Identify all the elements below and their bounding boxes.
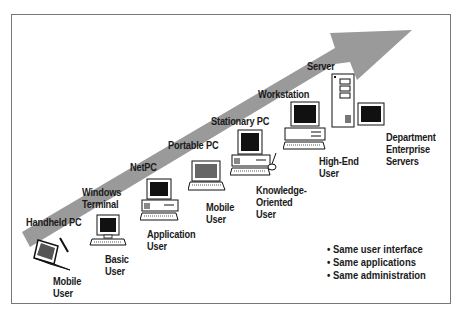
terminal-icon xyxy=(88,214,128,250)
platform-label-workstation: Workstation xyxy=(258,88,309,100)
user-label-mobile-handheld: Mobile User xyxy=(53,275,81,299)
user-label-basic: Basic User xyxy=(105,253,129,277)
user-label-knowledge-oriented: Knowledge- Oriented User xyxy=(256,184,307,220)
user-label-mobile-portable: Mobile User xyxy=(206,201,234,225)
platform-label-stationary-pc: Stationary PC xyxy=(211,115,269,127)
platform-label-netpc: NetPC xyxy=(130,161,157,173)
bullet-item: • Same user interface xyxy=(327,243,426,256)
user-label-application: Application User xyxy=(147,228,195,252)
laptop-icon xyxy=(188,160,226,194)
bullet-item: • Same applications xyxy=(327,256,426,269)
server-tower-icon xyxy=(330,73,386,129)
user-label-department-enterprise-servers: Department Enterprise Servers xyxy=(386,131,436,167)
bullet-list: • Same user interface • Same application… xyxy=(327,243,426,282)
user-label-high-end: High-End User xyxy=(319,155,359,179)
platform-label-handheld-pc: Handheld PC xyxy=(26,216,82,228)
desktop-pc-icon xyxy=(140,178,180,224)
workstation-icon xyxy=(283,101,327,151)
platform-label-server: Server xyxy=(307,60,335,72)
handheld-pc-icon xyxy=(32,236,74,274)
desktop-pc-mouse-icon xyxy=(230,129,278,181)
platform-label-windows-terminal: Windows Terminal xyxy=(82,186,121,210)
bullet-item: • Same administration xyxy=(327,269,426,282)
platform-label-portable-pc: Portable PC xyxy=(168,139,218,151)
